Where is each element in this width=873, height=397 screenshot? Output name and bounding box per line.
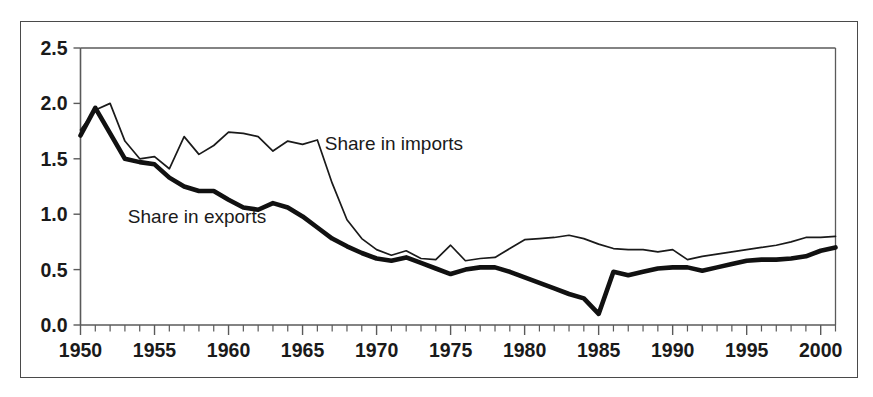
y-tick-label: 2.0: [40, 92, 67, 114]
share-in-exports-label: Share in exports: [128, 206, 266, 227]
x-tick-label: 1950: [59, 339, 103, 361]
x-tick-label: 1955: [133, 339, 177, 361]
x-tick-label: 1970: [355, 339, 399, 361]
x-tick-label: 1985: [577, 339, 621, 361]
y-tick-label: 0.0: [40, 314, 67, 336]
y-tick-label: 1.5: [40, 148, 67, 170]
share-in-imports-label: Share in imports: [325, 133, 463, 154]
y-tick-label: 1.0: [40, 203, 67, 225]
x-tick-label: 1980: [503, 339, 547, 361]
chart-labels: 0.00.51.01.52.02.51950195519601965197019…: [40, 37, 842, 361]
y-tick-label: 0.5: [40, 259, 67, 281]
series-line-share-in-imports: [81, 103, 836, 260]
figure-root: 0.00.51.01.52.02.51950195519601965197019…: [0, 0, 873, 397]
x-tick-label: 2000: [799, 339, 843, 361]
x-tick-label: 1975: [429, 339, 473, 361]
chart-axes: [74, 48, 836, 335]
y-tick-label: 2.5: [40, 37, 67, 59]
x-tick-label: 1990: [651, 339, 695, 361]
x-tick-label: 1965: [281, 339, 325, 361]
x-tick-label: 1960: [207, 339, 251, 361]
line-chart: 0.00.51.01.52.02.51950195519601965197019…: [0, 0, 873, 397]
x-tick-label: 1995: [725, 339, 769, 361]
